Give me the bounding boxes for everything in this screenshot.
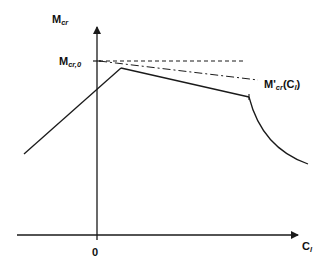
solid-curved-drop (249, 97, 308, 164)
y-tick-label-mcr0: Mcr,0 (59, 55, 82, 69)
modified-curve-label: M'cr(Cl) (264, 78, 301, 92)
solid-rising-branch (24, 68, 121, 154)
y-axis-label: Mcr (52, 13, 69, 27)
diagram-canvas: Mcr Mcr,0 0 Cl M'cr(Cl) (0, 0, 331, 269)
origin-label: 0 (92, 246, 98, 258)
modified-dashdot-line (99, 61, 258, 80)
x-axis-label: Cl (302, 240, 313, 254)
solid-falling-branch (121, 68, 249, 97)
